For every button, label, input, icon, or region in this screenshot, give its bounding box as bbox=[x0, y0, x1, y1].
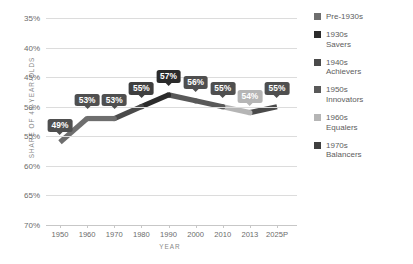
x-axis-line bbox=[46, 225, 297, 226]
x-axis-title: YEAR bbox=[30, 243, 310, 250]
x-tick-mark bbox=[169, 225, 170, 228]
callout-tail-icon bbox=[193, 89, 199, 92]
data-point-label: 49% bbox=[48, 119, 73, 132]
chart-root: SHARE OF 48-YEAR-OLDS YEAR 35%40%45%50%5… bbox=[0, 0, 413, 264]
line-joint bbox=[193, 98, 198, 103]
data-point-label: 57% bbox=[156, 70, 181, 83]
legend-item[interactable]: Pre-1930s bbox=[314, 12, 413, 22]
line-joint bbox=[85, 116, 90, 121]
data-point-value: 55% bbox=[133, 83, 150, 93]
data-point-value: 54% bbox=[241, 91, 258, 101]
legend-label: 1960s Equalers bbox=[326, 113, 358, 132]
legend-item[interactable]: 1960s Equalers bbox=[314, 113, 413, 132]
legend-item[interactable]: 1970s Balancers bbox=[314, 141, 413, 160]
y-tick-label: 60% bbox=[24, 161, 40, 170]
callout-tail-icon bbox=[138, 95, 144, 98]
x-tick-mark bbox=[141, 225, 142, 228]
x-tick-label: 2010 bbox=[214, 230, 231, 239]
x-tick-label: 1980 bbox=[133, 230, 150, 239]
callout-tail-icon bbox=[57, 132, 63, 135]
plot-area: 35%40%45%50%55%60%65%70%1950196019701980… bbox=[46, 18, 297, 225]
callout-tail-icon bbox=[165, 83, 171, 86]
line-joint bbox=[247, 110, 252, 115]
x-tick-label: 2013 bbox=[241, 230, 258, 239]
y-tick-label: 65% bbox=[24, 191, 40, 200]
legend-swatch-icon bbox=[314, 31, 321, 38]
legend-label: 1950s Innovators bbox=[326, 85, 363, 104]
y-tick-label: 45% bbox=[24, 73, 40, 82]
x-tick-label: 1960 bbox=[79, 230, 96, 239]
x-tick-label: 1970 bbox=[106, 230, 123, 239]
line-joint bbox=[112, 116, 117, 121]
y-tick-label: 35% bbox=[24, 14, 40, 23]
x-tick-mark bbox=[250, 225, 251, 228]
legend-label: 1970s Balancers bbox=[326, 141, 362, 160]
legend-label: 1930s Savers bbox=[326, 30, 351, 49]
data-point-value: 53% bbox=[79, 95, 96, 105]
legend-label: Pre-1930s bbox=[326, 12, 363, 22]
x-tick-mark bbox=[60, 225, 61, 228]
legend-swatch-icon bbox=[314, 86, 321, 93]
line-joint bbox=[166, 92, 171, 97]
data-point-label: 55% bbox=[129, 82, 154, 95]
y-tick-label: 40% bbox=[24, 43, 40, 52]
legend-swatch-icon bbox=[314, 142, 321, 149]
data-point-value: 56% bbox=[187, 77, 204, 87]
x-tick-label: 2000 bbox=[187, 230, 204, 239]
legend-item[interactable]: 1940s Achievers bbox=[314, 58, 413, 77]
gridline bbox=[46, 136, 297, 137]
gridline bbox=[46, 48, 297, 49]
data-point-label: 53% bbox=[75, 94, 100, 107]
x-tick-mark bbox=[196, 225, 197, 228]
x-tick-label: 1950 bbox=[52, 230, 69, 239]
data-point-label: 55% bbox=[265, 82, 290, 95]
callout-tail-icon bbox=[84, 107, 90, 110]
line-segment bbox=[141, 95, 168, 107]
y-tick-label: 50% bbox=[24, 102, 40, 111]
data-point-value: 57% bbox=[160, 71, 177, 81]
y-tick-label: 55% bbox=[24, 132, 40, 141]
x-tick-mark bbox=[87, 225, 88, 228]
gridline bbox=[46, 18, 297, 19]
callout-tail-icon bbox=[111, 107, 117, 110]
x-tick-label: 1990 bbox=[160, 230, 177, 239]
gridline bbox=[46, 195, 297, 196]
legend-item[interactable]: 1950s Innovators bbox=[314, 85, 413, 104]
data-point-value: 55% bbox=[214, 83, 231, 93]
data-point-label: 54% bbox=[237, 90, 262, 103]
gridline bbox=[46, 166, 297, 167]
line-segment bbox=[114, 107, 141, 119]
chart-legend: Pre-1930s1930s Savers1940s Achievers1950… bbox=[314, 12, 413, 169]
callout-tail-icon bbox=[247, 103, 253, 106]
legend-label: 1940s Achievers bbox=[326, 58, 361, 77]
data-point-label: 53% bbox=[102, 94, 127, 107]
x-tick-label: 2025P bbox=[266, 230, 288, 239]
data-point-label: 56% bbox=[183, 76, 208, 89]
legend-item[interactable]: 1930s Savers bbox=[314, 30, 413, 49]
x-tick-mark bbox=[114, 225, 115, 228]
legend-swatch-icon bbox=[314, 13, 321, 20]
data-point-value: 49% bbox=[52, 120, 69, 130]
y-tick-label: 70% bbox=[24, 221, 40, 230]
x-tick-mark bbox=[223, 225, 224, 228]
callout-tail-icon bbox=[274, 95, 280, 98]
legend-swatch-icon bbox=[314, 114, 321, 121]
legend-swatch-icon bbox=[314, 59, 321, 66]
data-point-value: 55% bbox=[269, 83, 286, 93]
x-tick-mark bbox=[277, 225, 278, 228]
data-point-value: 53% bbox=[106, 95, 123, 105]
callout-tail-icon bbox=[220, 95, 226, 98]
data-point-label: 55% bbox=[210, 82, 235, 95]
line-segment bbox=[169, 95, 196, 101]
series-lines bbox=[46, 18, 297, 225]
